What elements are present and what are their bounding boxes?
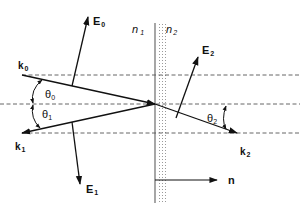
E0-vector <box>72 17 88 86</box>
n2-label: n2 <box>166 23 177 36</box>
E1-vector <box>72 122 80 184</box>
wave-interface-diagram: n1 n2 k0 k1 k2 E0 E1 E2 n θ0 θ1 θ2 <box>0 0 307 209</box>
E2-vector <box>176 57 198 118</box>
k1-label: k1 <box>15 141 26 153</box>
E1-label: E1 <box>86 183 98 196</box>
E0-label: E0 <box>93 15 105 28</box>
n1-label: n1 <box>132 23 144 36</box>
medium-2-region <box>157 23 168 203</box>
k0-vector <box>22 75 155 104</box>
k0-label: k0 <box>18 60 29 72</box>
k2-label: k2 <box>240 146 251 158</box>
E2-label: E2 <box>202 44 214 57</box>
theta0-arc <box>32 80 42 103</box>
n-label: n <box>228 174 235 186</box>
theta1-arc <box>32 105 40 128</box>
theta2-label: θ2 <box>207 112 217 125</box>
theta2-arc <box>224 106 227 129</box>
theta1-label: θ1 <box>42 108 52 121</box>
theta0-label: θ0 <box>45 88 55 101</box>
